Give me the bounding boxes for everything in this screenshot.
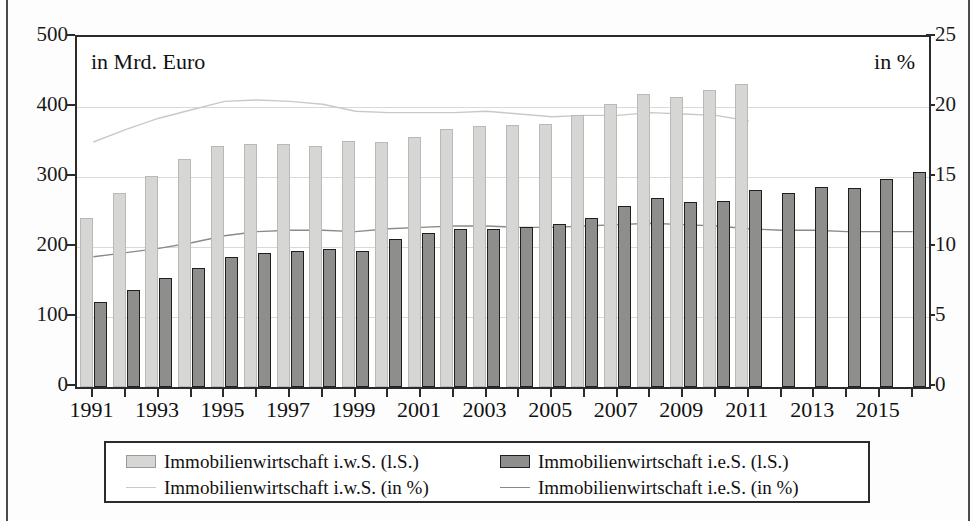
legend-row-bars: Immobilienwirtschaft i.w.S. (l.S.) Immob…	[106, 448, 868, 474]
bar-wide-2009	[670, 97, 683, 387]
x-axis-label-1995: 1995	[200, 399, 244, 421]
y-axis-left: 0100200300400500	[0, 35, 68, 385]
legend-label-bar-light: Immobilienwirtschaft i.w.S. (l.S.)	[164, 452, 419, 471]
x-axis-label-1999: 1999	[332, 399, 376, 421]
x-tick-2002	[452, 387, 454, 397]
bar-narrow-2011	[749, 190, 762, 387]
bar-narrow-2010	[717, 201, 730, 387]
x-axis-label-1993: 1993	[135, 399, 179, 421]
bar-narrow-2001	[422, 233, 435, 387]
y-left-tick-100: 100	[6, 304, 68, 325]
x-tick-2013	[812, 387, 814, 397]
tick-mark	[66, 34, 75, 36]
x-tick-2012	[780, 387, 782, 397]
bar-narrow-2016	[913, 172, 926, 387]
x-tick-1999	[354, 387, 356, 397]
legend-item-bar-light: Immobilienwirtschaft i.w.S. (l.S.)	[106, 452, 494, 471]
x-axis-label-1997: 1997	[266, 399, 310, 421]
unit-note-right: in %	[874, 51, 915, 73]
bar-wide-1996	[244, 144, 257, 387]
bar-wide-1999	[342, 141, 355, 387]
legend-swatch-light-bar	[126, 455, 156, 468]
legend-linekey-light	[126, 481, 156, 494]
x-axis-label-2009: 2009	[659, 399, 703, 421]
bar-narrow-2013	[815, 187, 828, 387]
y-left-tick-200: 200	[6, 234, 68, 255]
bar-wide-1998	[309, 146, 322, 387]
tick-mark	[66, 244, 75, 246]
bar-wide-1994	[178, 159, 191, 387]
bar-narrow-1996	[258, 253, 271, 387]
x-axis: 1991199319951997199920012003200520072009…	[75, 387, 931, 435]
y-left-tick-500: 500	[6, 24, 68, 45]
x-axis-label-2013: 2013	[790, 399, 834, 421]
bar-narrow-1995	[225, 257, 238, 387]
legend-item-line-light: Immobilienwirtschaft i.w.S. (in %)	[106, 478, 494, 497]
plot-inner: in Mrd. Euro in %	[77, 37, 929, 387]
x-tick-1998	[321, 387, 323, 397]
x-tick-2015	[878, 387, 880, 397]
tick-mark	[66, 104, 75, 106]
x-tick-1997	[288, 387, 290, 397]
bar-narrow-2003	[487, 229, 500, 387]
bar-narrow-1998	[323, 249, 336, 387]
bar-narrow-2002	[454, 229, 467, 387]
bar-wide-2011	[735, 84, 748, 387]
legend-item-line-dark: Immobilienwirtschaft i.e.S. (in %)	[494, 478, 868, 497]
y-right-tick-0: 0	[935, 374, 973, 395]
bar-wide-1991	[80, 218, 93, 387]
gridline	[77, 107, 929, 108]
bar-wide-2007	[604, 104, 617, 388]
gridline	[77, 247, 929, 248]
y-right-tick-15: 15	[935, 164, 973, 185]
bar-wide-2000	[375, 142, 388, 387]
x-axis-label-1991: 1991	[69, 399, 113, 421]
chart-figure: 0100200300400500 0510152025 in Mrd. Euro…	[0, 0, 974, 521]
tick-mark	[66, 174, 75, 176]
bar-narrow-2004	[520, 227, 533, 387]
chart-legend: Immobilienwirtschaft i.w.S. (l.S.) Immob…	[104, 441, 870, 503]
legend-label-bar-dark: Immobilienwirtschaft i.e.S. (l.S.)	[538, 452, 789, 471]
x-tick-2016	[911, 387, 913, 397]
x-tick-2000	[386, 387, 388, 397]
unit-note-left: in Mrd. Euro	[91, 51, 205, 73]
bar-wide-2005	[539, 124, 552, 387]
x-tick-2008	[648, 387, 650, 397]
bar-narrow-1994	[192, 268, 205, 387]
bar-wide-2002	[440, 129, 453, 387]
legend-linekey-dark	[500, 481, 530, 494]
bar-wide-2001	[408, 137, 421, 387]
bar-narrow-2014	[848, 188, 861, 388]
x-tick-2005	[550, 387, 552, 397]
x-tick-2014	[845, 387, 847, 397]
bar-narrow-2012	[782, 193, 795, 387]
x-tick-1991	[91, 387, 93, 397]
x-tick-2011	[747, 387, 749, 397]
x-axis-label-2003: 2003	[463, 399, 507, 421]
x-tick-1995	[222, 387, 224, 397]
y-right-tick-10: 10	[935, 234, 973, 255]
y-left-tick-400: 400	[6, 94, 68, 115]
x-tick-1992	[124, 387, 126, 397]
bar-narrow-2007	[618, 206, 631, 387]
x-axis-label-2005: 2005	[528, 399, 572, 421]
x-axis-label-2015: 2015	[856, 399, 900, 421]
bar-narrow-2015	[880, 179, 893, 387]
x-tick-1993	[157, 387, 159, 397]
x-tick-2006	[583, 387, 585, 397]
x-tick-1994	[190, 387, 192, 397]
legend-label-line-dark: Immobilienwirtschaft i.e.S. (in %)	[538, 478, 799, 497]
legend-item-bar-dark: Immobilienwirtschaft i.e.S. (l.S.)	[494, 452, 868, 471]
bar-narrow-2006	[585, 218, 598, 387]
bar-wide-1995	[211, 146, 224, 387]
bar-wide-2010	[703, 90, 716, 388]
plot-area: in Mrd. Euro in %	[75, 35, 931, 389]
bar-narrow-2008	[651, 198, 664, 387]
legend-swatch-dark-bar	[500, 455, 530, 468]
y-left-tick-300: 300	[6, 164, 68, 185]
bar-narrow-2005	[553, 224, 566, 387]
bar-narrow-1993	[159, 278, 172, 387]
x-tick-2003	[485, 387, 487, 397]
x-axis-label-2001: 2001	[397, 399, 441, 421]
bar-narrow-1997	[291, 251, 304, 388]
